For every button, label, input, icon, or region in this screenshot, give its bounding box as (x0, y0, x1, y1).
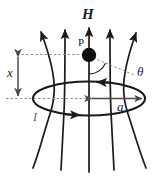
angle-theta-label: θ (137, 65, 143, 78)
field-line-inner-left (61, 30, 65, 170)
field-line-outer-left (33, 32, 54, 168)
field-vector-label: H (82, 7, 94, 22)
loop-arrow-far-side (97, 82, 110, 83)
axial-distance-label: x (7, 66, 13, 79)
field-line-inner-right (110, 30, 114, 170)
figure-canvas (0, 0, 160, 177)
point-p-marker (82, 48, 96, 62)
current-label: I (33, 111, 37, 123)
magnetic-field-figure: H P x θ a I (0, 0, 160, 177)
guide-lines-group (6, 55, 134, 99)
angle-arc-theta (89, 63, 106, 74)
loop-radius-label: a (117, 100, 124, 113)
point-p-label: P (78, 37, 84, 48)
field-line-outer-right (124, 33, 146, 168)
